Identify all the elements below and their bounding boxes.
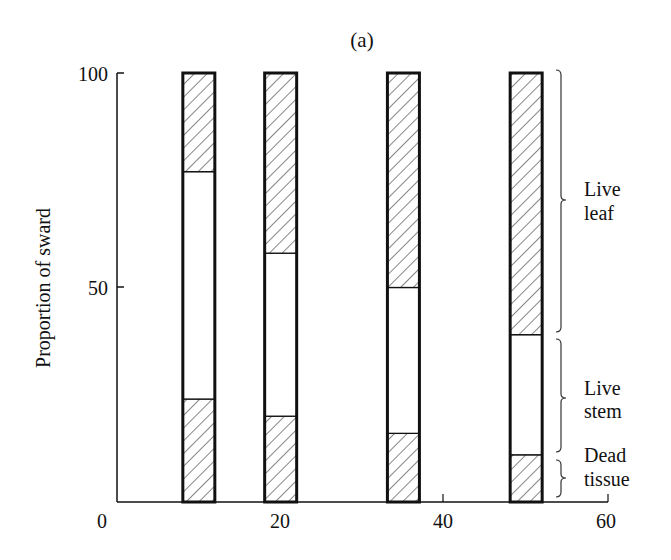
segment-live-stem bbox=[265, 253, 297, 416]
x-tick-labels: 0 20 40 60 bbox=[97, 510, 616, 532]
y-tick-labels: 100 50 bbox=[78, 63, 108, 299]
bar-10 bbox=[183, 73, 215, 502]
segment-live-leaf bbox=[265, 73, 297, 253]
bar-50 bbox=[510, 73, 542, 502]
y-axis-label: Proportion of sward bbox=[32, 208, 55, 368]
legend-live-leaf-line2: leaf bbox=[584, 202, 614, 224]
segment-dead-tissue bbox=[265, 416, 297, 502]
legend-live-leaf-line1: Live bbox=[584, 178, 621, 200]
legend-dead-tissue-line1: Dead bbox=[584, 444, 626, 466]
brace-live-stem bbox=[556, 339, 566, 452]
chart-title: (a) bbox=[350, 28, 373, 52]
y-tick-50: 50 bbox=[88, 277, 108, 299]
stacked-bar-chart: (a) Proportion of sward 100 50 0 20 40 6… bbox=[0, 0, 671, 560]
brace-live-leaf bbox=[556, 70, 566, 332]
legend-live-stem-line1: Live bbox=[584, 377, 621, 399]
segment-live-leaf bbox=[183, 73, 215, 172]
brace-dead-tissue bbox=[556, 460, 566, 497]
bar-20 bbox=[265, 73, 297, 502]
y-tick-100: 100 bbox=[78, 63, 108, 85]
segment-dead-tissue bbox=[510, 455, 542, 502]
legend-live-stem-line2: stem bbox=[584, 400, 622, 422]
x-tick-40: 40 bbox=[433, 510, 453, 532]
segment-dead-tissue bbox=[387, 433, 419, 502]
x-tick-20: 20 bbox=[270, 510, 290, 532]
x-tick-0: 0 bbox=[97, 510, 107, 532]
legend-braces bbox=[556, 70, 566, 497]
bars bbox=[183, 73, 542, 502]
segment-live-stem bbox=[183, 172, 215, 399]
segment-live-stem bbox=[510, 335, 542, 455]
segment-live-stem bbox=[387, 288, 419, 434]
legend: Live leaf Live stem Dead tissue bbox=[584, 178, 630, 490]
segment-live-leaf bbox=[387, 73, 419, 288]
legend-dead-tissue-line2: tissue bbox=[584, 468, 630, 490]
bar-35 bbox=[387, 73, 419, 502]
segment-live-leaf bbox=[510, 73, 542, 335]
segment-dead-tissue bbox=[183, 399, 215, 502]
x-tick-60: 60 bbox=[596, 510, 616, 532]
